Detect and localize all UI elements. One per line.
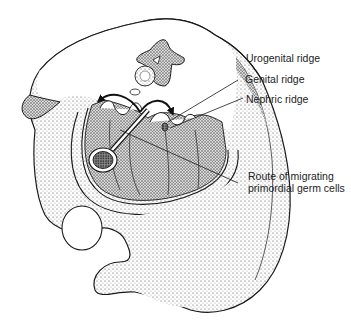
label-route-migrating-germ-cells: Route of migrating primordial germ cells: [248, 170, 348, 194]
notochord: [135, 66, 155, 86]
embryo-cross-section-diagram: [0, 0, 351, 326]
label-urogenital-ridge: Urogenital ridge: [246, 52, 320, 64]
label-nephric-ridge: Nephric ridge: [246, 93, 308, 105]
aorta: [130, 89, 140, 95]
amnion-bulge: [62, 206, 102, 250]
label-genital-ridge: Genital ridge: [245, 73, 305, 85]
